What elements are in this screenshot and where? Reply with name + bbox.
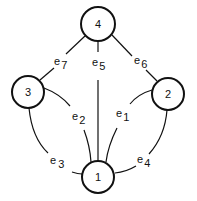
edge-e1-segment-a	[130, 90, 152, 104]
edge-e6-segment-a	[112, 35, 132, 56]
node-3: 3	[12, 76, 44, 108]
edge-label-e7: e7	[54, 55, 67, 71]
edge-e7-segment-b	[40, 68, 54, 80]
node-1-label: 1	[95, 171, 101, 183]
edge-e4-segment-a	[149, 110, 167, 154]
edge-label-e1: e1	[116, 107, 129, 123]
edge-label-e2: e2	[72, 110, 85, 126]
node-1: 1	[82, 161, 114, 193]
edge-e1-segment-b	[106, 128, 117, 162]
node-2: 2	[152, 78, 184, 110]
edge-e2-segment-b	[84, 130, 91, 162]
edge-e2-segment-a	[44, 88, 70, 106]
edge-e4-segment-b	[115, 166, 136, 173]
graph-diagram: e7 e5 e6 e2 e1 e3 e4 4 3 2 1	[0, 0, 197, 201]
edge-label-e5: e5	[92, 56, 105, 72]
edge-e3-segment-b	[72, 172, 82, 174]
edge-labels: e7 e5 e6 e2 e1 e3 e4	[50, 54, 150, 170]
node-3-label: 3	[25, 86, 31, 98]
edge-label-e4: e4	[137, 153, 150, 169]
edge-label-e6: e6	[134, 54, 147, 70]
node-4: 4	[81, 7, 115, 41]
node-4-label: 4	[95, 18, 101, 30]
node-2-label: 2	[165, 88, 171, 100]
edge-label-e3: e3	[50, 154, 64, 170]
edge-e3-segment-a	[29, 108, 48, 153]
edge-e6-segment-b	[146, 70, 157, 81]
edge-e7-segment-a	[66, 36, 85, 54]
